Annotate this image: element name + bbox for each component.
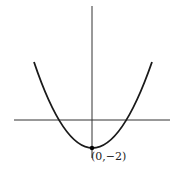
graph-canvas: (0,−2) [0, 0, 177, 173]
vertex-label: (0,−2) [91, 150, 126, 163]
graph-svg [0, 0, 177, 173]
parabola-curve [34, 62, 152, 148]
